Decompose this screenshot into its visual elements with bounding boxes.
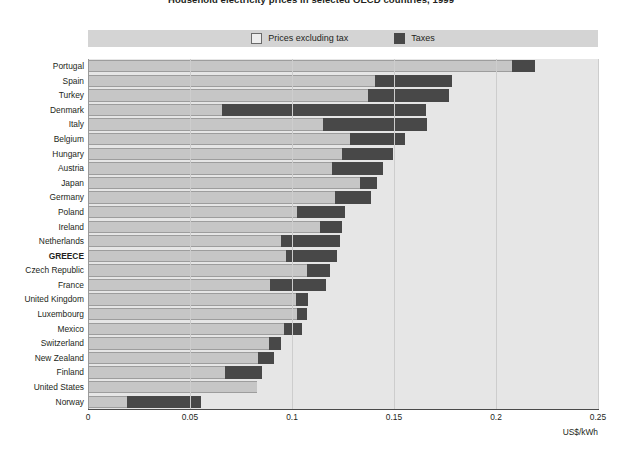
bar-segment-prices-excluding-tax <box>89 323 284 335</box>
bar-segment-prices-excluding-tax <box>89 104 222 116</box>
legend-swatch-icon-prices-excluding-tax <box>251 33 262 44</box>
x-tick-label: 0.25 <box>590 412 606 422</box>
bar-segment-taxes <box>258 352 273 364</box>
bar-segment-prices-excluding-tax <box>89 235 281 247</box>
bar-segment-prices-excluding-tax <box>89 191 335 203</box>
gridline <box>394 59 395 409</box>
x-axis-unit-label: US$/kWh <box>563 427 598 437</box>
category-label-poland: Poland <box>0 208 84 216</box>
x-tick-label: 0.05 <box>182 412 198 422</box>
legend-label-taxes: Taxes <box>411 34 435 43</box>
category-label-finland: Finland <box>0 368 84 376</box>
bar-segment-taxes <box>320 221 342 233</box>
bar-row <box>89 366 598 378</box>
category-label-belgium: Belgium <box>0 135 84 143</box>
bar-row <box>89 323 598 335</box>
legend-entry-taxes: Taxes <box>394 33 435 44</box>
bar-segment-prices-excluding-tax <box>89 221 320 233</box>
category-label-denmark: Denmark <box>0 106 84 114</box>
category-label-japan: Japan <box>0 179 84 187</box>
bar-row <box>89 352 598 364</box>
category-label-france: France <box>0 281 84 289</box>
gridline <box>598 59 599 409</box>
category-label-italy: Italy <box>0 120 84 128</box>
bar-segment-prices-excluding-tax <box>89 381 257 393</box>
bar-row <box>89 235 598 247</box>
bar-row <box>89 162 598 174</box>
bar-segment-prices-excluding-tax <box>89 206 297 218</box>
legend-entry-prices-excluding-tax: Prices excluding tax <box>251 33 348 44</box>
bar-row <box>89 396 598 408</box>
bar-segment-prices-excluding-tax <box>89 264 307 276</box>
bar-segment-taxes <box>368 89 449 101</box>
bar-segment-prices-excluding-tax <box>89 308 297 320</box>
category-label-hungary: Hungary <box>0 150 84 158</box>
x-tick-label: 0.2 <box>490 412 502 422</box>
bar-row <box>89 148 598 160</box>
bar-segment-prices-excluding-tax <box>89 118 323 130</box>
bar-segment-taxes <box>350 133 405 145</box>
bar-segment-taxes <box>307 264 329 276</box>
category-label-new-zealand: New Zealand <box>0 354 84 362</box>
gridline <box>190 59 191 409</box>
chart-legend: Prices excluding tax Taxes <box>88 30 598 47</box>
bar-segment-taxes <box>332 162 383 174</box>
bar-segment-prices-excluding-tax <box>89 337 269 349</box>
x-tick-label: 0 <box>86 412 91 422</box>
bar-row <box>89 206 598 218</box>
bar-row <box>89 177 598 189</box>
bar-segment-taxes <box>323 118 427 130</box>
bar-segment-taxes <box>225 366 263 378</box>
category-label-norway: Norway <box>0 398 84 406</box>
bar-segment-prices-excluding-tax <box>89 60 512 72</box>
bar-row <box>89 308 598 320</box>
bar-segment-prices-excluding-tax <box>89 162 332 174</box>
bar-segment-taxes <box>342 148 393 160</box>
bar-segment-taxes <box>281 235 340 247</box>
bar-segment-prices-excluding-tax <box>89 352 258 364</box>
bar-row <box>89 279 598 291</box>
bar-row <box>89 118 598 130</box>
bar-row <box>89 221 598 233</box>
bar-segment-prices-excluding-tax <box>89 75 375 87</box>
bar-segment-taxes <box>296 293 308 305</box>
bar-segment-prices-excluding-tax <box>89 177 360 189</box>
category-label-portugal: Portugal <box>0 62 84 70</box>
gridline <box>292 59 293 409</box>
category-label-turkey: Turkey <box>0 91 84 99</box>
bar-row <box>89 293 598 305</box>
x-axis-tick-labels: 00.050.10.150.20.25 <box>0 412 622 426</box>
bar-segment-taxes <box>297 206 345 218</box>
bar-row <box>89 191 598 203</box>
chart-root: Household electricity prices in selected… <box>0 0 622 461</box>
bar-segment-prices-excluding-tax <box>89 148 342 160</box>
category-label-austria: Austria <box>0 164 84 172</box>
category-label-spain: Spain <box>0 77 84 85</box>
category-label-netherlands: Netherlands <box>0 237 84 245</box>
bar-row <box>89 133 598 145</box>
category-label-united-states: United States <box>0 383 84 391</box>
bar-segment-taxes <box>375 75 453 87</box>
bar-row <box>89 264 598 276</box>
bar-segment-taxes <box>286 250 337 262</box>
category-label-germany: Germany <box>0 193 84 201</box>
bar-row <box>89 89 598 101</box>
bar-row <box>89 75 598 87</box>
bar-segment-taxes <box>270 279 326 291</box>
bar-segment-prices-excluding-tax <box>89 293 296 305</box>
category-label-czech-republic: Czech Republic <box>0 266 84 274</box>
bar-segment-prices-excluding-tax <box>89 250 286 262</box>
x-tick-label: 0.15 <box>386 412 402 422</box>
x-tick-label: 0.1 <box>286 412 298 422</box>
category-label-luxembourg: Luxembourg <box>0 310 84 318</box>
bar-row <box>89 337 598 349</box>
x-axis-line <box>88 409 599 410</box>
category-axis-labels: PortugalSpainTurkeyDenmarkItalyBelgiumHu… <box>0 59 84 409</box>
bar-rows <box>89 59 598 409</box>
bar-segment-prices-excluding-tax <box>89 279 270 291</box>
bar-segment-taxes <box>269 337 281 349</box>
legend-label-prices-excluding-tax: Prices excluding tax <box>268 34 348 43</box>
chart-title: Household electricity prices in selected… <box>0 0 622 5</box>
bar-segment-taxes <box>335 191 371 203</box>
bar-segment-taxes <box>360 177 376 189</box>
